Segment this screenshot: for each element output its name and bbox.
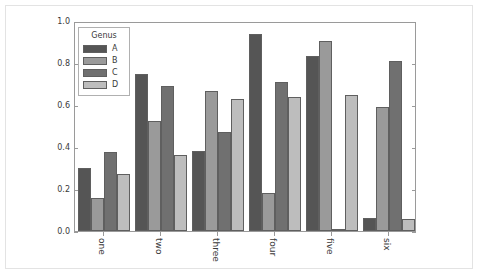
y-tick-label: 0.4 xyxy=(36,144,70,152)
legend-label-B: B xyxy=(112,57,118,65)
y-tick-label: 0.0 xyxy=(36,228,70,236)
y-tick-mark xyxy=(74,232,78,233)
bar-six-B[interactable] xyxy=(376,107,389,231)
bar-group-five xyxy=(306,23,358,231)
bar-five-A[interactable] xyxy=(306,56,319,231)
bar-two-D[interactable] xyxy=(174,155,187,231)
y-tick-mark xyxy=(74,22,78,23)
x-tick-mark xyxy=(331,232,332,236)
bar-group-six xyxy=(363,23,415,231)
bar-four-B[interactable] xyxy=(262,193,275,231)
x-tick-label-six: six xyxy=(382,238,392,251)
y-tick-mark xyxy=(412,148,416,149)
y-tick-mark xyxy=(412,232,416,233)
x-tick-mark xyxy=(103,232,104,236)
bar-group-two xyxy=(135,23,187,231)
bar-one-A[interactable] xyxy=(78,168,91,231)
bar-five-D[interactable] xyxy=(345,95,358,232)
y-tick-mark xyxy=(412,106,416,107)
bar-four-A[interactable] xyxy=(249,34,262,231)
bar-three-A[interactable] xyxy=(192,151,205,231)
y-tick-mark xyxy=(412,22,416,23)
bar-four-C[interactable] xyxy=(275,82,288,231)
legend: Genus ABCD xyxy=(78,27,130,96)
bar-five-C[interactable] xyxy=(332,229,345,231)
y-tick-mark xyxy=(412,190,416,191)
bar-group-three xyxy=(192,23,244,231)
x-tick-mark xyxy=(160,232,161,236)
legend-label-D: D xyxy=(112,81,118,89)
bar-six-D[interactable] xyxy=(402,219,415,231)
bar-two-C[interactable] xyxy=(161,86,174,231)
legend-swatch-D xyxy=(83,81,107,89)
x-tick-mark xyxy=(217,232,218,236)
y-tick-mark xyxy=(74,148,78,149)
bar-three-C[interactable] xyxy=(218,132,231,231)
y-tick-label: 0.8 xyxy=(36,60,70,68)
bar-five-B[interactable] xyxy=(319,41,332,231)
x-tick-label-one: one xyxy=(97,238,107,255)
bar-one-C[interactable] xyxy=(104,152,117,231)
legend-title: Genus xyxy=(83,31,125,40)
bar-one-D[interactable] xyxy=(117,174,130,231)
bar-two-B[interactable] xyxy=(148,121,161,231)
bar-three-D[interactable] xyxy=(231,99,244,231)
legend-label-A: A xyxy=(112,45,117,53)
bar-one-B[interactable] xyxy=(91,198,104,231)
bar-two-A[interactable] xyxy=(135,74,148,232)
x-tick-label-three: three xyxy=(211,238,221,262)
bar-three-B[interactable] xyxy=(205,91,218,231)
legend-swatch-C xyxy=(83,69,107,77)
bar-four-D[interactable] xyxy=(288,97,301,231)
legend-entries: ABCD xyxy=(83,43,125,90)
figure-canvas: 0.00.20.40.60.81.0 onetwothreefourfivesi… xyxy=(0,0,479,275)
legend-entry-C[interactable]: C xyxy=(83,67,125,78)
y-tick-mark xyxy=(74,190,78,191)
x-tick-label-five: five xyxy=(325,238,335,255)
y-tick-label: 0.2 xyxy=(36,186,70,194)
bar-group-four xyxy=(249,23,301,231)
legend-entry-B[interactable]: B xyxy=(83,55,125,66)
legend-label-C: C xyxy=(112,69,118,77)
y-tick-label: 1.0 xyxy=(36,18,70,26)
legend-entry-D[interactable]: D xyxy=(83,79,125,90)
y-tick-label: 0.6 xyxy=(36,102,70,110)
legend-entry-A[interactable]: A xyxy=(83,43,125,54)
x-tick-label-two: two xyxy=(154,238,164,254)
x-tick-mark xyxy=(388,232,389,236)
legend-swatch-A xyxy=(83,45,107,53)
legend-swatch-B xyxy=(83,57,107,65)
y-tick-mark xyxy=(412,64,416,65)
x-tick-mark xyxy=(274,232,275,236)
bar-six-C[interactable] xyxy=(389,61,402,231)
x-tick-label-four: four xyxy=(268,238,278,256)
y-tick-mark xyxy=(74,106,78,107)
bar-six-A[interactable] xyxy=(363,218,376,231)
